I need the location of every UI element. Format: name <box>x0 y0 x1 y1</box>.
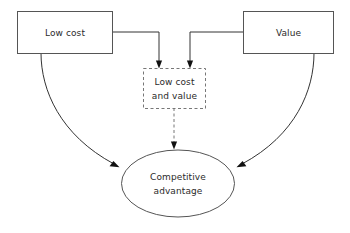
arrow-head-right-elbow <box>187 61 193 69</box>
diagram-svg: Low cost Value Low cost and value Compet… <box>0 0 350 233</box>
node-competitive-advantage[interactable]: Competitive advantage <box>122 150 235 217</box>
diagram-canvas: Low cost Value Low cost and value Compet… <box>0 0 350 233</box>
connector-value-to-combined <box>187 32 243 69</box>
node-low-cost-and-value[interactable]: Low cost and value <box>144 69 206 109</box>
competitive-advantage-label-line1: Competitive <box>150 172 206 182</box>
competitive-advantage-ellipse[interactable] <box>122 150 235 217</box>
curve-path-right <box>242 53 314 164</box>
competitive-advantage-label-line2: advantage <box>154 186 203 196</box>
node-value[interactable]: Value <box>244 12 334 54</box>
low-cost-and-value-label-line2: and value <box>152 91 198 101</box>
low-cost-and-value-box[interactable] <box>144 69 206 109</box>
arrow-head-down <box>171 142 177 150</box>
arrow-head-left-elbow <box>156 61 162 69</box>
low-cost-label: Low cost <box>45 28 85 38</box>
connector-low-cost-to-advantage <box>41 53 120 167</box>
connector-combined-to-advantage <box>171 108 177 150</box>
elbow-path-left <box>112 32 159 62</box>
connector-value-to-advantage <box>237 53 315 167</box>
elbow-path-right <box>190 32 243 62</box>
value-label: Value <box>276 28 302 38</box>
low-cost-and-value-label-line1: Low cost <box>154 77 194 87</box>
curve-path-left <box>41 53 114 164</box>
connector-low-cost-to-combined <box>112 32 162 69</box>
node-low-cost[interactable]: Low cost <box>18 12 113 54</box>
